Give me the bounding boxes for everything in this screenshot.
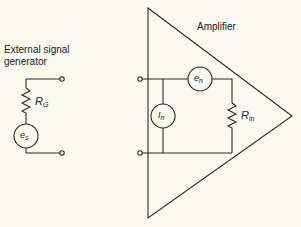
generator-resistor-rg <box>22 88 30 124</box>
label-en: en <box>194 72 203 87</box>
amplifier-title: Amplifier <box>197 21 236 33</box>
label-es: es <box>20 129 29 144</box>
label-in: In <box>158 109 164 124</box>
generator-title: External signal generator <box>4 44 70 68</box>
label-rg: RG <box>35 95 48 111</box>
generator-title-line1: External signal <box>4 44 70 56</box>
generator-title-line2: generator <box>4 56 70 68</box>
amplifier-top-wire-right <box>212 79 232 103</box>
label-rin: Rin <box>241 109 254 125</box>
circuit-diagram <box>0 0 301 227</box>
generator-bottom-wire <box>26 148 60 153</box>
generator-terminal-top[interactable] <box>60 77 64 81</box>
generator-terminal-bottom[interactable] <box>60 151 64 155</box>
input-resistor-rin <box>228 103 236 153</box>
amplifier-terminal-top[interactable] <box>138 77 142 81</box>
amplifier-terminal-bottom[interactable] <box>138 151 142 155</box>
generator-top-wire <box>26 79 60 88</box>
amplifier-triangle <box>148 8 292 218</box>
